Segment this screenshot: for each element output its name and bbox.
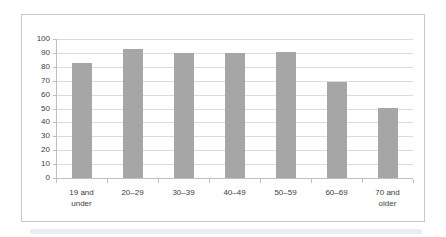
y-axis-tick-label: 100 — [28, 35, 50, 43]
x-category-label: 70 and older — [357, 187, 418, 209]
y-axis-tick-label: 80 — [28, 63, 50, 71]
x-axis-tick — [311, 179, 312, 183]
gridline — [56, 39, 413, 40]
bar — [276, 52, 296, 178]
page-ghost-band — [30, 229, 422, 234]
chart-frame: 010203040506070809010019 and under20–293… — [21, 14, 425, 222]
y-axis-tick-label: 0 — [28, 174, 50, 182]
bar — [72, 63, 92, 178]
y-axis-tick-label: 30 — [28, 132, 50, 140]
x-axis-tick — [107, 179, 108, 183]
y-axis-tick-label: 50 — [28, 105, 50, 113]
bar — [327, 82, 347, 178]
bar — [123, 49, 143, 178]
gridline — [56, 178, 413, 179]
x-axis-tick — [260, 179, 261, 183]
bar — [378, 108, 398, 178]
x-axis-tick — [362, 179, 363, 183]
x-axis-tick — [158, 179, 159, 183]
bar — [174, 53, 194, 178]
bar-chart: 010203040506070809010019 and under20–293… — [0, 0, 446, 237]
y-axis-tick-label: 10 — [28, 160, 50, 168]
y-axis-line — [56, 39, 57, 178]
y-axis-tick-label: 70 — [28, 77, 50, 85]
x-axis-tick — [209, 179, 210, 183]
y-axis-tick-label: 40 — [28, 118, 50, 126]
y-axis-tick-label: 60 — [28, 91, 50, 99]
y-axis-tick-label: 20 — [28, 146, 50, 154]
x-axis-tick — [413, 179, 414, 183]
x-axis-tick — [56, 179, 57, 183]
y-axis-tick-label: 90 — [28, 49, 50, 57]
bar — [225, 53, 245, 178]
